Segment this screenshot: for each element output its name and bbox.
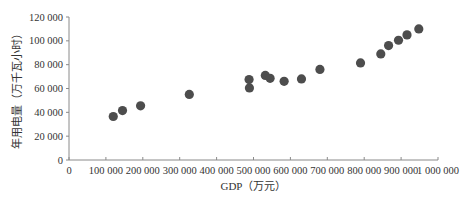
data-point [384,41,393,50]
y-tick-label: 100 000 [29,35,63,46]
y-tick-label: 20 000 [34,131,63,142]
data-point [394,36,403,45]
y-axis-title: 年用电量（万千瓦小时） [10,28,23,149]
x-tick-label: 400 000 [200,165,234,176]
data-point [402,30,411,39]
y-tick-label: 0 [58,155,63,166]
x-tick-label: 300 000 [163,165,197,176]
data-point [109,112,118,121]
x-tick-label: 0 [66,165,71,176]
x-tick-label: 1 000 000 [417,165,459,176]
data-point [280,77,289,86]
data-point [297,74,306,83]
x-tick-label: 700 000 [310,165,344,176]
data-point [245,83,254,92]
y-tick-label: 40 000 [34,107,63,118]
x-tick-label: 500 000 [236,165,270,176]
data-point [414,24,423,33]
x-axis-title: GDP（万元） [220,180,286,192]
scatter-chart: 020 00040 00060 00080 000100 000120 000 … [0,0,467,202]
y-axis-ticks: 020 00040 00060 00080 000100 000120 000 [29,12,69,166]
data-point [315,65,324,74]
data-point [136,101,145,110]
x-tick-label: 600 000 [273,165,307,176]
data-point [356,58,365,67]
data-point [266,74,275,83]
x-tick-label: 900 000 [384,165,418,176]
x-tick-label: 200 000 [126,165,160,176]
data-point [185,90,194,99]
data-point [244,75,253,84]
data-points [109,24,424,121]
y-tick-label: 80 000 [34,59,63,70]
data-point [118,106,127,115]
y-tick-label: 120 000 [29,12,63,23]
x-tick-label: 800 000 [347,165,381,176]
x-tick-label: 100 000 [89,165,123,176]
y-tick-label: 60 000 [34,83,63,94]
data-point [376,49,385,58]
